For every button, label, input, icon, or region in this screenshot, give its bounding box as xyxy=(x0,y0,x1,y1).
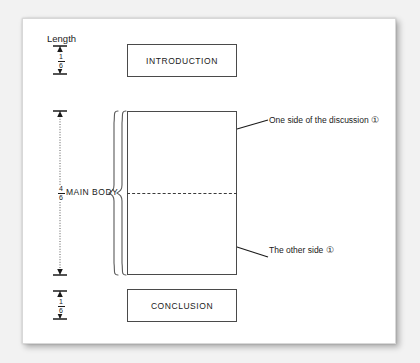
measure-intro-top-arrowhead xyxy=(57,46,63,52)
fraction-main-body: 4 6 xyxy=(57,185,66,201)
main-body-brace-inner xyxy=(117,111,126,275)
conclusion-block-label: CONCLUSION xyxy=(151,301,213,311)
page-card: Length 1 6 4 6 1 6 INTRODUCTION MAIN BOD… xyxy=(22,18,396,344)
length-axis-label: Length xyxy=(47,34,76,44)
introduction-block: INTRODUCTION xyxy=(127,44,237,77)
fraction-introduction: 1 6 xyxy=(57,53,66,69)
introduction-block-label: INTRODUCTION xyxy=(146,56,218,66)
annotation-one-side: One side of the discussion ① xyxy=(269,115,379,125)
fraction-conclusion-numerator: 1 xyxy=(59,298,63,305)
fraction-introduction-denominator: 6 xyxy=(59,62,63,69)
main-body-dashed-divider xyxy=(127,193,237,194)
fraction-conclusion: 1 6 xyxy=(57,298,66,314)
conclusion-block: CONCLUSION xyxy=(127,289,237,322)
measure-concl-top-arrowhead xyxy=(57,291,63,297)
fraction-main-body-numerator: 4 xyxy=(59,185,63,192)
main-body-label: MAIN BODY xyxy=(66,188,118,197)
fraction-introduction-numerator: 1 xyxy=(59,53,63,60)
fraction-main-body-denominator: 6 xyxy=(59,194,63,201)
measure-main-bottom-arrowhead xyxy=(57,269,63,275)
measure-main-top-arrowhead xyxy=(57,111,63,117)
annotation-other-side: The other side ① xyxy=(269,245,334,255)
fraction-conclusion-denominator: 6 xyxy=(59,307,63,314)
